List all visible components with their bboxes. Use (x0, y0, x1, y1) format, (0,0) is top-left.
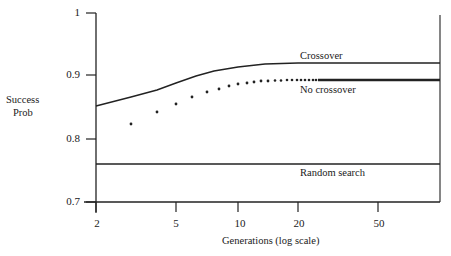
y-tick-label-1: 1 (50, 6, 80, 18)
x-ticks (96, 202, 378, 213)
x-tick-label-20: 20 (284, 217, 314, 229)
x-tick-label-2: 2 (82, 217, 112, 229)
crossover-label: Crossover (300, 50, 343, 61)
x-tick-label-5: 5 (161, 217, 191, 229)
y-axis-label-line2: Prob (13, 107, 33, 118)
y-tick-label-0.9: 0.9 (50, 68, 80, 80)
no-crossover-label: No crossover (300, 84, 356, 95)
y-tick-label-0.8: 0.8 (50, 132, 80, 144)
x-tick-label-50: 50 (364, 217, 394, 229)
y-ticks (86, 13, 96, 202)
y-tick-label-0.7: 0.7 (50, 195, 80, 207)
crossover-line (96, 63, 440, 106)
y-axis-label-line1: Success (6, 94, 39, 105)
random-search-label: Random search (300, 167, 365, 178)
x-tick-label-10: 10 (225, 217, 255, 229)
no-crossover-dots (130, 79, 318, 126)
x-axis-label: Generations (log scale) (222, 235, 319, 246)
